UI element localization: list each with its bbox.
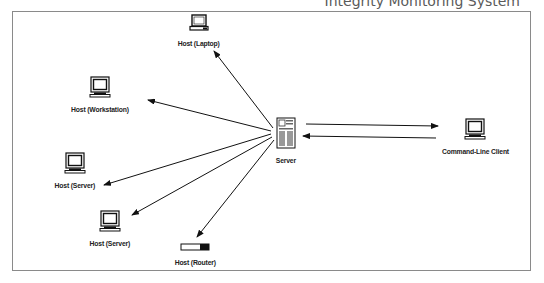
- label-laptop: Host (Laptop): [178, 39, 220, 48]
- edge-client-server: [303, 136, 436, 138]
- node-router: Host (Router): [160, 243, 230, 269]
- node-server: Server: [266, 117, 306, 167]
- edge-server-workstation: [148, 100, 271, 131]
- router-icon: [180, 243, 210, 251]
- edge-server-laptop: [214, 51, 273, 128]
- laptop-icon: [189, 14, 209, 32]
- label-client: Command-Line Client: [441, 147, 508, 156]
- monitor-icon: [89, 76, 111, 98]
- monitor-icon: [64, 152, 86, 174]
- label-router: Host (Router): [174, 258, 215, 267]
- edge-server-router: [197, 140, 274, 237]
- node-host-server-1: Host (Server): [35, 152, 115, 192]
- edge-server-client: [306, 124, 438, 126]
- monitor-icon: [99, 210, 121, 232]
- node-workstation: Host (Workstation): [55, 76, 145, 116]
- server-tower-icon: [276, 117, 296, 149]
- label-host-server-2: Host (Server): [90, 239, 130, 248]
- node-laptop: Host (Laptop): [164, 14, 234, 50]
- node-host-server-2: Host (Server): [70, 210, 150, 250]
- monitor-icon: [464, 118, 486, 140]
- node-client: Command-Line Client: [430, 118, 520, 158]
- label-server: Server: [276, 156, 296, 165]
- label-host-server-1: Host (Server): [55, 181, 95, 190]
- edge-server-host-server-1: [104, 134, 271, 185]
- label-workstation: Host (Workstation): [71, 105, 129, 114]
- edge-server-host-server-2: [132, 137, 272, 215]
